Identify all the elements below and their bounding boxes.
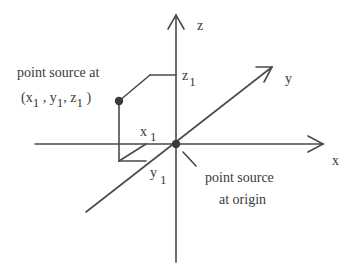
point-source-caption: point source at bbox=[17, 65, 100, 80]
origin-source-caption-line1: point source bbox=[205, 170, 274, 185]
point-source-dot bbox=[115, 97, 123, 105]
origin-source-dot bbox=[172, 140, 180, 148]
coordinate-diagram: z y x z1 x1 y1 point source at (x1 , y1,… bbox=[0, 0, 356, 279]
x-axis-label: x bbox=[332, 153, 339, 168]
x1-label: x1 bbox=[140, 124, 157, 144]
y-axis-label: y bbox=[285, 71, 292, 86]
z-axis-label: z bbox=[197, 18, 203, 33]
z-axis bbox=[168, 15, 184, 262]
z1-label: z1 bbox=[182, 68, 196, 89]
origin-pointer-line bbox=[183, 152, 196, 166]
point-source-coordinates: (x1 , y1, z1 ) bbox=[21, 90, 91, 110]
origin-source-caption-line2: at origin bbox=[219, 192, 266, 207]
y-axis bbox=[86, 67, 272, 212]
y1-label: y1 bbox=[150, 165, 167, 187]
